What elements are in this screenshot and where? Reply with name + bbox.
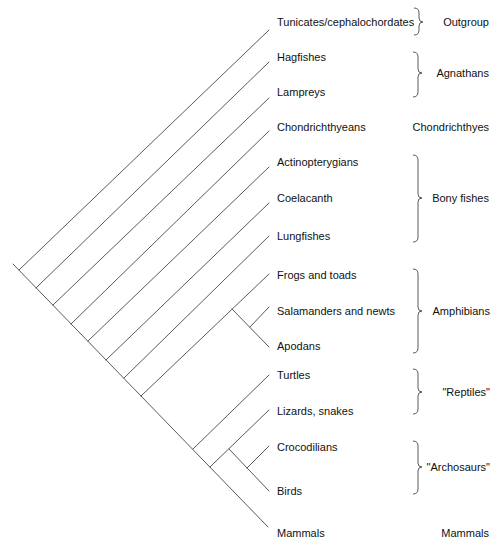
- cladogram: Tunicates/cephalochordates Hagfishes Lam…: [0, 0, 503, 551]
- taxon-label: Apodans: [277, 340, 321, 352]
- branch-lizards: [210, 410, 269, 467]
- branch-coelacanth: [106, 203, 269, 360]
- branch-salamanders: [250, 307, 269, 327]
- brace-archosaurs: [413, 441, 422, 494]
- branch-tunicates: [19, 30, 269, 270]
- group-label: "Archosaurs": [427, 461, 491, 473]
- taxon-label: Mammals: [277, 527, 325, 539]
- branch-crocodilians: [247, 446, 269, 468]
- taxon-label: Lizards, snakes: [277, 405, 354, 417]
- taxon-label: Turtles: [277, 369, 311, 381]
- brace-bony-fishes: [413, 155, 422, 242]
- brace-outgroup: [414, 8, 423, 35]
- group-label: "Reptiles": [442, 386, 490, 398]
- branch-birds: [229, 449, 269, 491]
- brace-agnathans: [413, 52, 422, 97]
- branch-actinopterygians: [88, 167, 269, 341]
- group-label: Amphibians: [433, 305, 491, 317]
- taxon-label: Hagfishes: [277, 51, 326, 63]
- taxon-label: Actinopterygians: [277, 156, 359, 168]
- taxon-label: Frogs and toads: [277, 269, 357, 281]
- branch-chondrichthyeans: [71, 131, 269, 324]
- branch-lampreys: [53, 98, 269, 305]
- taxon-label: Crocodilians: [277, 441, 338, 453]
- branch-apodans: [232, 309, 269, 347]
- group-label: Bony fishes: [432, 192, 489, 204]
- branch-turtles: [193, 375, 269, 449]
- branch-lungfishes: [124, 236, 269, 378]
- taxon-label: Lungfishes: [277, 230, 331, 242]
- taxon-label: Salamanders and newts: [277, 305, 396, 317]
- group-label: Agnathans: [436, 67, 489, 79]
- group-label: Chondrichthyes: [413, 121, 490, 133]
- main-stem: [13, 264, 268, 527]
- taxon-label: Chondrichthyeans: [277, 121, 366, 133]
- brace-reptiles: [413, 369, 422, 414]
- group-label: Mammals: [441, 527, 489, 539]
- taxon-label: Tunicates/cephalochordates: [277, 16, 415, 28]
- branch-hagfishes: [36, 62, 269, 288]
- taxon-label: Birds: [277, 485, 303, 497]
- taxon-label: Coelacanth: [277, 192, 333, 204]
- group-label: Outgroup: [443, 16, 489, 28]
- branch-frogs: [141, 274, 269, 396]
- taxon-label: Lampreys: [277, 86, 326, 98]
- brace-amphibians: [413, 269, 422, 353]
